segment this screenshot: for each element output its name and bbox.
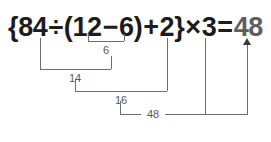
step-2-bracket-right-stem (111, 56, 112, 69)
step-3-bracket-base (75, 91, 167, 92)
step-1-bracket-left-stem (88, 34, 89, 41)
equals-sign: = (216, 12, 233, 42)
multiplication-sign: × (184, 12, 201, 42)
step-1-bracket-right-stem (124, 34, 125, 41)
result-arrow-shaft (247, 44, 248, 114)
step-2-bracket-left-stem (40, 38, 41, 69)
step-3-bracket-left-stem (75, 79, 76, 91)
operand-6: 6 (119, 12, 134, 42)
step-1-bracket-base (88, 41, 124, 42)
step-3-bracket-right-stem (167, 38, 168, 91)
division-sign: ÷ (47, 12, 63, 42)
operand-3: 3 (202, 12, 217, 42)
close-paren: ) (134, 12, 143, 42)
step-4-value: 48 (141, 108, 165, 120)
step-4-bracket-right-stem (205, 38, 206, 114)
open-brace: { (8, 12, 18, 42)
step-4-bracket-left-stem (120, 101, 121, 114)
step-4-bracket-base-left (120, 114, 141, 115)
step-2-bracket-base (40, 69, 111, 70)
result-arrow-head-icon (243, 38, 251, 45)
operand-84: 84 (18, 12, 47, 42)
minus-sign: − (102, 12, 119, 42)
close-brace: } (174, 12, 184, 42)
step-4-bracket-base-right (165, 114, 248, 115)
order-of-operations-diagram: {84÷(12−6)+2}×3=48 6 14 16 48 (0, 0, 271, 142)
step-3-value: 16 (109, 94, 133, 106)
step-1-value: 6 (94, 44, 118, 56)
plus-sign: + (142, 12, 159, 42)
